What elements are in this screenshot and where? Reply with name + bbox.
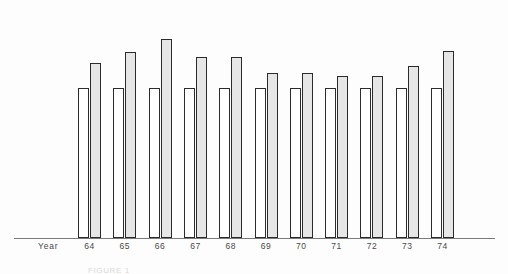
bar-value-73 bbox=[408, 66, 419, 238]
bar-value-70 bbox=[302, 73, 313, 238]
bar-value-69 bbox=[267, 73, 278, 238]
tick-label-70: 70 bbox=[289, 241, 313, 251]
bar-value-66 bbox=[161, 39, 172, 238]
tick-label-64: 64 bbox=[78, 241, 102, 251]
tick-label-68: 68 bbox=[219, 241, 243, 251]
bar-reference-67 bbox=[184, 88, 195, 238]
tick-label-74: 74 bbox=[431, 241, 455, 251]
bar-value-68 bbox=[231, 57, 242, 238]
bar-reference-72 bbox=[360, 88, 371, 238]
tick-label-67: 67 bbox=[183, 241, 207, 251]
bar-reference-74 bbox=[431, 88, 442, 238]
bar-reference-68 bbox=[219, 88, 230, 238]
bar-reference-66 bbox=[149, 88, 160, 238]
tick-label-66: 66 bbox=[148, 241, 172, 251]
bar-reference-69 bbox=[255, 88, 266, 238]
tick-label-72: 72 bbox=[360, 241, 384, 251]
bar-value-65 bbox=[125, 52, 136, 238]
bar-reference-71 bbox=[325, 88, 336, 238]
bar-value-64 bbox=[90, 63, 101, 238]
x-axis-line bbox=[14, 238, 495, 239]
bar-reference-64 bbox=[78, 88, 89, 238]
tick-label-73: 73 bbox=[395, 241, 419, 251]
tick-label-65: 65 bbox=[113, 241, 137, 251]
bar-value-71 bbox=[337, 76, 348, 238]
figure-page: Year 6465666768697071727374 FIGURE 1 bbox=[0, 0, 508, 274]
bar-chart-plot: Year 6465666768697071727374 FIGURE 1 bbox=[0, 0, 508, 274]
tick-label-71: 71 bbox=[325, 241, 349, 251]
bar-value-67 bbox=[196, 57, 207, 238]
bar-reference-70 bbox=[290, 88, 301, 238]
bar-value-72 bbox=[372, 76, 383, 238]
figure-caption: FIGURE 1 bbox=[88, 266, 130, 274]
bar-reference-73 bbox=[396, 88, 407, 238]
x-axis-title: Year bbox=[38, 241, 58, 251]
bar-reference-65 bbox=[113, 88, 124, 238]
tick-label-69: 69 bbox=[254, 241, 278, 251]
bar-value-74 bbox=[443, 51, 454, 238]
